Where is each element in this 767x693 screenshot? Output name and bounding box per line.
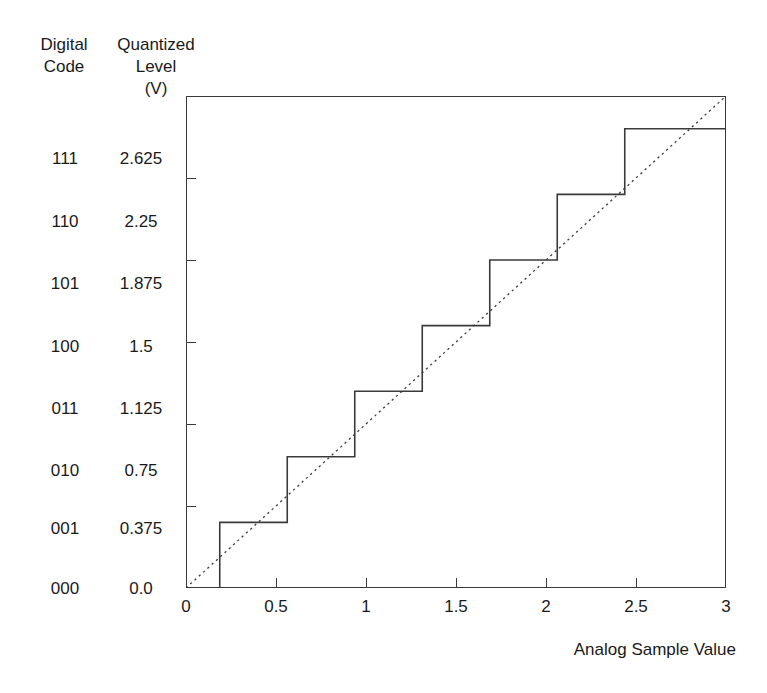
digital-code-label: 101: [26, 275, 104, 292]
digital-code-label: 110: [26, 213, 104, 230]
plot-area: [186, 96, 726, 588]
x-axis-tick-label: 2.5: [606, 597, 666, 617]
quantized-level-label: 0.75: [104, 462, 178, 479]
digital-code-label: 011: [26, 400, 104, 417]
quantizer-staircase-line: [186, 129, 726, 588]
x-axis-tick-label: 0.5: [246, 597, 306, 617]
digital-code-label: 010: [26, 462, 104, 479]
x-axis-title: Analog Sample Value: [486, 640, 736, 660]
digital-code-label: 100: [26, 338, 104, 355]
quantized-level-label: 2.25: [104, 213, 178, 230]
quantized-level-label: 1.875: [104, 275, 178, 292]
digital-code-heading: Digital Code: [22, 34, 106, 78]
quantized-level-label: 1.5: [104, 338, 178, 355]
x-axis-tick-label: 1.5: [426, 597, 486, 617]
quantized-level-label: 0.0: [104, 580, 178, 597]
quantized-level-label: 0.375: [104, 520, 178, 537]
x-axis-tick-label: 1: [336, 597, 396, 617]
quantized-level-heading: Quantized Level (V): [104, 34, 208, 100]
plot-svg: [186, 96, 726, 588]
digital-code-label: 001: [26, 520, 104, 537]
x-axis-tick-label: 0: [156, 597, 216, 617]
quantization-transfer-figure: Digital Code Quantized Level (V) 111 110…: [0, 0, 767, 693]
quantized-level-label: 1.125: [104, 400, 178, 417]
x-axis-tick-label: 2: [516, 597, 576, 617]
digital-code-label: 111: [26, 150, 104, 167]
quantized-level-label: 2.625: [104, 150, 178, 167]
ideal-analog-dotted-line: [186, 96, 726, 588]
digital-code-label: 000: [26, 580, 104, 597]
x-axis-tick-label: 3: [696, 597, 756, 617]
